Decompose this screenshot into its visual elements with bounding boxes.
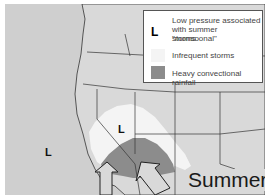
map-legend: L Low pressure associated with summer "m… (143, 10, 263, 83)
legend-item-low-pressure: L Low pressure associated with summer "m… (144, 15, 262, 49)
low-pressure-symbol: L (151, 25, 165, 38)
heavy-swatch (151, 66, 165, 79)
infrequent-swatch (151, 49, 165, 62)
legend-item-heavy: Heavy convectional rainfall (144, 66, 262, 80)
season-label: Summer (186, 169, 265, 191)
low-pressure-marker-nevada: L (118, 123, 125, 135)
legend-item-infrequent: Infrequent storms (144, 49, 262, 63)
summer-monsoon-map: L L Summer L Low pressure associated wit… (0, 0, 265, 195)
low-pressure-marker-ocean: L (45, 146, 52, 158)
